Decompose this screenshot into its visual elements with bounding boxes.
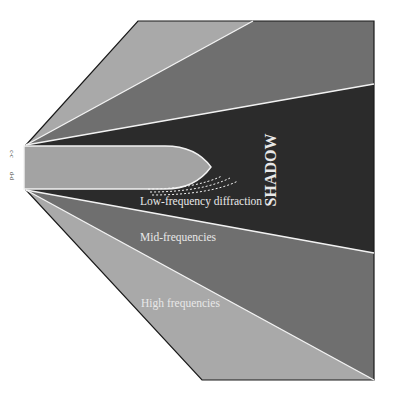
section-marker-bottom: d-d bbox=[9, 172, 15, 180]
diffraction-diagram: Low-frequency diffraction Mid-frequencie… bbox=[0, 0, 394, 398]
obstacle bbox=[24, 146, 211, 189]
section-marker-top: c-c bbox=[9, 150, 15, 158]
low-frequency-label: Low-frequency diffraction bbox=[140, 195, 262, 208]
shadow-label: SHADOW bbox=[262, 134, 279, 207]
high-frequency-label: High frequencies bbox=[141, 297, 220, 310]
mid-frequency-label: Mid-frequencies bbox=[140, 231, 217, 244]
